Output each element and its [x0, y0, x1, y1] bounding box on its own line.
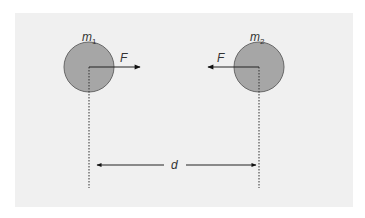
mass-2-label: m2 [250, 30, 265, 46]
mass-1-label: m1 [82, 30, 97, 46]
gravity-diagram: m1 F m2 F d [0, 0, 365, 218]
distance-indicator: d [97, 158, 256, 172]
mass-1: m1 F [64, 30, 140, 188]
force-1-label: F [120, 51, 128, 65]
distance-label: d [171, 158, 178, 172]
force-2-label: F [217, 51, 225, 65]
mass-2: m2 F [208, 30, 284, 188]
